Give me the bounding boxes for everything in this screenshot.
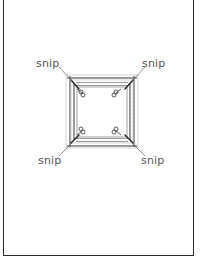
- label-top-left: snip: [36, 58, 60, 69]
- scissors-icon: [112, 89, 121, 97]
- scissors-icon: [77, 127, 85, 135]
- label-bottom-left: snip: [38, 155, 62, 166]
- stitch-line: [77, 87, 127, 137]
- corner-cut-lines: [71, 80, 133, 143]
- label-bottom-right: snip: [141, 155, 165, 166]
- label-top-right: snip: [142, 58, 166, 69]
- snip-square-diagram: [0, 0, 203, 262]
- scissors-icon: [77, 89, 85, 97]
- scissors-icon: [112, 127, 121, 135]
